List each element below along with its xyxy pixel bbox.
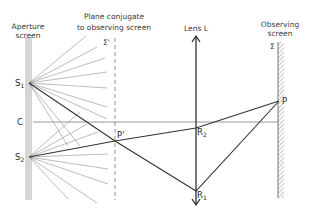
r1-label: R1 bbox=[197, 190, 207, 201]
s2-label: S2 bbox=[15, 152, 24, 163]
conjugate-plane-label-2: to observing screen bbox=[77, 23, 151, 32]
observing-screen bbox=[278, 42, 284, 198]
sigma-prime-label: Σ' bbox=[103, 38, 110, 47]
sigma-label: Σ bbox=[270, 42, 275, 51]
p-prime-label: P' bbox=[117, 130, 124, 140]
lens-label: Lens L bbox=[184, 24, 209, 33]
observing-screen-label-2: screen bbox=[268, 29, 293, 38]
c-label: C bbox=[17, 117, 23, 127]
p-label: P bbox=[282, 96, 287, 106]
heavy-rays bbox=[29, 83, 279, 191]
aperture-screen-label: Aperture bbox=[12, 22, 45, 31]
aperture-screen-label-2: screen bbox=[16, 31, 41, 40]
conjugate-plane-label: Plane conjugate bbox=[84, 12, 145, 21]
ray-fan-s2 bbox=[29, 112, 108, 203]
observing-screen-label: Observing bbox=[261, 20, 300, 29]
lens-l bbox=[192, 36, 200, 205]
r2-label: R2 bbox=[197, 127, 207, 138]
s1-label: S1 bbox=[15, 78, 24, 89]
optics-diagram: Aperture screen Plane conjugate to obser… bbox=[0, 0, 310, 217]
aperture-screen bbox=[25, 37, 32, 200]
